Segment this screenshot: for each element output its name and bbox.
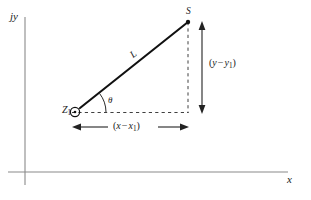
diagram-svg xyxy=(0,0,311,200)
y-axis-label: jy xyxy=(10,11,18,22)
angle-arc xyxy=(100,94,106,113)
axes-group xyxy=(8,17,288,185)
point-z1-label: Z1 xyxy=(62,105,71,117)
vertical-dimension-arrow xyxy=(199,21,206,114)
angle-theta-label: θ xyxy=(108,96,112,105)
vertical-leg-label: (y−y1) xyxy=(209,58,236,70)
point-s-label: S xyxy=(186,7,191,17)
horizontal-leg-close-paren: ) xyxy=(136,120,139,131)
figure-canvas: jy x S Z1 θ L (y−y1) (x−x1) xyxy=(0,0,311,200)
vertical-leg-close-paren: ) xyxy=(232,57,235,68)
point-z1-marker xyxy=(70,107,79,116)
horizontal-leg-label: (x−x1) xyxy=(113,121,140,133)
hypotenuse-line xyxy=(80,22,188,108)
point-s-marker xyxy=(186,20,190,24)
x-axis-label: x xyxy=(287,174,292,185)
point-z1-label-subscript: 1 xyxy=(68,109,72,117)
